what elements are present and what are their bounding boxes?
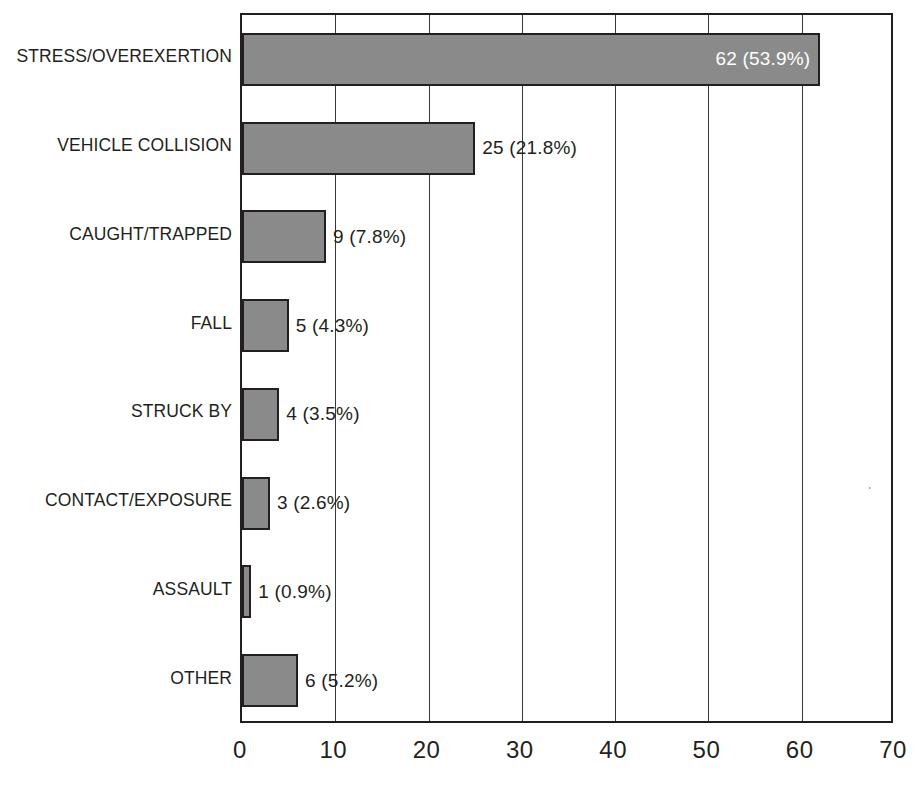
bar[interactable] (242, 654, 298, 707)
bar-row: 9 (7.8%) (242, 210, 891, 263)
category-label: CAUGHT/TRAPPED (69, 226, 232, 244)
bar-row: 4 (3.5%) (242, 388, 891, 441)
bar-value-label: 62 (53.9%) (715, 48, 810, 70)
category-label: CONTACT/EXPOSURE (45, 492, 232, 510)
bar[interactable] (242, 299, 289, 352)
category-label: ASSAULT (153, 581, 232, 599)
bar-value-label: 4 (3.5%) (279, 403, 359, 425)
category-label: STRESS/OVEREXERTION (16, 48, 232, 66)
x-tick-label: 40 (599, 736, 627, 764)
category-label: FALL (191, 315, 232, 333)
bar-value-label: 6 (5.2%) (298, 670, 378, 692)
category-axis-labels: STRESS/OVEREXERTIONVEHICLE COLLISIONCAUG… (0, 13, 232, 723)
bar-row: 6 (5.2%) (242, 654, 891, 707)
paper-speck (869, 487, 871, 489)
bar-row: 1 (0.9%) (242, 565, 891, 618)
x-tick-label: 60 (786, 736, 814, 764)
bar-value-label: 25 (21.8%) (475, 137, 577, 159)
chart-page: STRESS/OVEREXERTIONVEHICLE COLLISIONCAUG… (0, 0, 915, 787)
bar-row: 3 (2.6%) (242, 477, 891, 530)
plot-area: 62 (53.9%)25 (21.8%)9 (7.8%)5 (4.3%)4 (3… (240, 13, 893, 723)
bar-value-label: 3 (2.6%) (270, 492, 350, 514)
x-axis: 010203040506070 (240, 723, 893, 783)
bar-value-label: 9 (7.8%) (326, 226, 406, 248)
bar-value-label: 1 (0.9%) (251, 581, 331, 603)
x-tick-label: 20 (413, 736, 441, 764)
bar-row: 5 (4.3%) (242, 299, 891, 352)
bar-row: 25 (21.8%) (242, 122, 891, 175)
x-tick-label: 10 (319, 736, 347, 764)
bar-row: 62 (53.9%) (242, 33, 891, 86)
bar-value-label: 5 (4.3%) (289, 315, 369, 337)
x-tick-label: 0 (233, 736, 247, 764)
bar[interactable] (242, 565, 251, 618)
bar[interactable] (242, 122, 475, 175)
bar[interactable] (242, 210, 326, 263)
category-label: STRUCK BY (131, 403, 232, 421)
category-label: VEHICLE COLLISION (57, 137, 232, 155)
bar[interactable] (242, 388, 279, 441)
category-label: OTHER (170, 670, 232, 688)
bar[interactable] (242, 477, 270, 530)
x-tick-label: 30 (506, 736, 534, 764)
x-tick-label: 70 (879, 736, 907, 764)
bar[interactable]: 62 (53.9%) (242, 33, 820, 86)
x-tick-label: 50 (693, 736, 721, 764)
